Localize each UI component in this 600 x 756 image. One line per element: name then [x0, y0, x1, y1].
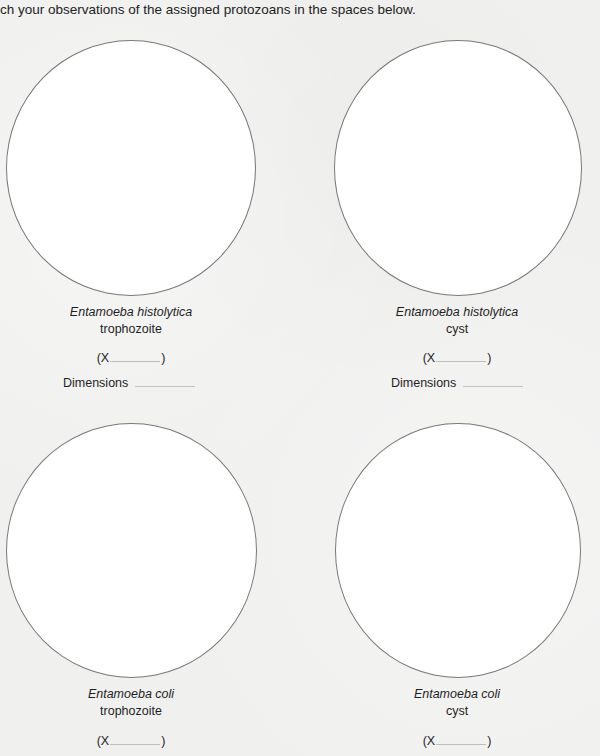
magnification-blank[interactable]	[110, 349, 160, 362]
magnification-prefix: (X	[423, 734, 436, 748]
dimensions-label: Dimensions	[63, 376, 128, 390]
species-name: Entamoeba histolytica	[327, 304, 587, 321]
caption-coli-trophozoite: Entamoeba coli trophozoite	[1, 686, 261, 720]
magnification-field-coli-cyst[interactable]: (X)	[327, 732, 587, 748]
stage-name: trophozoite	[1, 703, 261, 720]
magnification-prefix: (X	[97, 351, 110, 365]
dimensions-label: Dimensions	[391, 376, 456, 390]
magnification-suffix: )	[161, 734, 165, 748]
instruction-text: ch your observations of the assigned pro…	[0, 2, 416, 17]
dimensions-blank[interactable]	[463, 374, 523, 387]
stage-name: cyst	[327, 703, 587, 720]
drawing-circle-histolytica-cyst[interactable]	[334, 40, 582, 296]
magnification-field-histolytica-trophozoite[interactable]: (X)	[1, 349, 261, 365]
species-name: Entamoeba coli	[1, 686, 261, 703]
dimensions-field-histolytica-trophozoite[interactable]: Dimensions	[63, 374, 195, 390]
magnification-suffix: )	[161, 351, 165, 365]
magnification-blank[interactable]	[110, 732, 160, 745]
species-name: Entamoeba histolytica	[1, 304, 261, 321]
caption-histolytica-cyst: Entamoeba histolytica cyst	[327, 304, 587, 338]
magnification-prefix: (X	[423, 351, 436, 365]
drawing-circle-coli-trophozoite[interactable]	[6, 423, 257, 678]
caption-coli-cyst: Entamoeba coli cyst	[327, 686, 587, 720]
magnification-suffix: )	[487, 351, 491, 365]
magnification-prefix: (X	[97, 734, 110, 748]
dimensions-blank[interactable]	[135, 374, 195, 387]
caption-histolytica-trophozoite: Entamoeba histolytica trophozoite	[1, 304, 261, 338]
drawing-circle-coli-cyst[interactable]	[335, 423, 581, 678]
magnification-field-histolytica-cyst[interactable]: (X)	[327, 349, 587, 365]
species-name: Entamoeba coli	[327, 686, 587, 703]
magnification-field-coli-trophozoite[interactable]: (X)	[1, 732, 261, 748]
stage-name: trophozoite	[1, 321, 261, 338]
stage-name: cyst	[327, 321, 587, 338]
magnification-blank[interactable]	[436, 732, 486, 745]
drawing-circle-histolytica-trophozoite[interactable]	[6, 40, 256, 296]
magnification-suffix: )	[487, 734, 491, 748]
magnification-blank[interactable]	[436, 349, 486, 362]
dimensions-field-histolytica-cyst[interactable]: Dimensions	[391, 374, 523, 390]
